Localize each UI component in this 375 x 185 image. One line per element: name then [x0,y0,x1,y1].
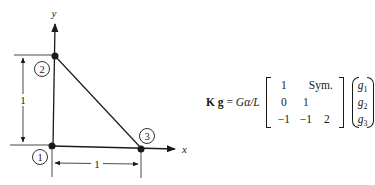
right-bracket [339,77,344,128]
horizontal-dimension-label: 1 [94,158,100,170]
matrix-symmetric-label: Sym. [295,77,337,94]
x-axis-label: x [181,143,187,155]
triangle-element-diagram: y x 1 1 1 2 3 [0,0,200,185]
node-1-dot [49,143,56,150]
matrix-cell-2-2: 1 [295,94,317,111]
matrix-cell-3-3: 2 [317,111,337,128]
matrix-cell-1-1: 1 [273,77,295,94]
coefficient-matrix: 1 Sym. 0 1 −1 −1 2 [266,77,344,128]
stiffness-matrix-symbol: K [206,96,215,108]
equation-lhs: K g = Gα/L [206,96,260,108]
y-axis-label: y [51,7,57,19]
vertical-dimension-label: 1 [20,94,26,106]
equals-sign: = [226,96,233,108]
node-2-dot [52,53,59,60]
stiffness-equation: K g = Gα/L 1 Sym. 0 1 −1 −1 2 g1 g2 g3 [206,74,374,130]
scalar-factor: Gα/L [236,96,260,108]
left-bracket [266,77,271,128]
element-edge-2-3 [55,56,141,148]
x-axis [52,146,175,149]
matrix-cell-2-1: 0 [273,94,295,111]
node-2-label: 2 [39,64,44,75]
right-parenthesis [367,77,374,128]
node-1-label: 1 [37,152,42,163]
matrix-cell-2-3 [317,94,337,111]
matrix-cell-3-2: −1 [295,111,317,128]
vector-g-symbol: g [218,96,224,108]
unknown-vector: g1 g2 g3 [352,77,374,128]
left-parenthesis [352,77,359,128]
y-axis [53,24,55,146]
node-3-dot [138,146,145,153]
node-3-label: 3 [144,131,149,142]
matrix-cell-3-1: −1 [273,111,295,128]
